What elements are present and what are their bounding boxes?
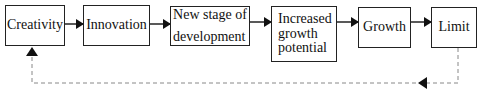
node-label: Creativity <box>7 18 63 33</box>
arrow-up-icon <box>26 47 38 56</box>
node-label: New stage of development <box>173 4 247 47</box>
node-increased-growth: Increased growth potential <box>271 6 337 62</box>
node-growth: Growth <box>358 7 411 48</box>
arrow-left-icon <box>418 77 427 89</box>
node-label: Growth <box>363 20 406 35</box>
node-label: Increased growth potential <box>278 12 332 56</box>
node-limit: Limit <box>431 7 477 48</box>
node-new-stage: New stage of development <box>170 6 250 46</box>
node-label: Innovation <box>86 18 147 33</box>
node-label: Limit <box>438 20 469 35</box>
node-creativity: Creativity <box>5 5 65 46</box>
node-innovation: Innovation <box>83 5 150 46</box>
feedback-loop-dashed <box>26 47 458 89</box>
